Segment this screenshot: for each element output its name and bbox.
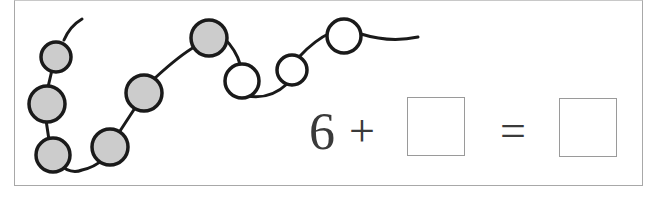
bead-shaded [191, 20, 227, 56]
bead-unshaded [277, 55, 307, 85]
second-addend-answer-box[interactable] [407, 97, 465, 156]
plus-sign: + [349, 108, 375, 154]
bead-shaded [29, 86, 65, 122]
equals-sign: = [500, 108, 526, 154]
first-addend: 6 [309, 106, 335, 158]
string-segment [155, 46, 196, 78]
bead-unshaded [225, 64, 259, 98]
sum-answer-box[interactable] [559, 98, 617, 157]
bead-string-illustration [0, 0, 648, 200]
bead-unshaded [327, 19, 361, 53]
string-tail-start [64, 19, 82, 40]
bead-shaded [36, 138, 70, 172]
bead-shaded [126, 75, 162, 111]
bead-shaded [41, 42, 71, 72]
string-segment [120, 108, 135, 131]
string-tail-end [361, 34, 418, 39]
bead-shaded [92, 129, 128, 165]
